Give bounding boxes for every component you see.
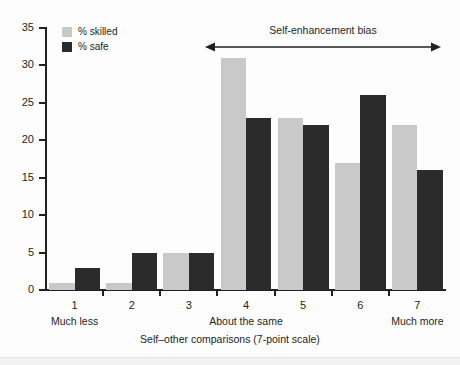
self-enhancement-bias-annotation: Self-enhancement bias (205, 24, 441, 51)
bar (335, 163, 360, 290)
y-axis-tick (39, 252, 46, 254)
x-axis-tick (216, 291, 218, 296)
bar (189, 253, 214, 290)
y-axis-tick-label: 25 (0, 97, 34, 108)
y-axis-tick-label: 15 (0, 172, 34, 183)
x-axis-tick-label: 5 (273, 299, 333, 311)
bar (392, 125, 417, 290)
x-axis-tick-label: 7 (387, 299, 447, 311)
legend-item: % skilled (62, 25, 117, 38)
x-axis-sub-label: Much more (357, 315, 460, 327)
y-axis-tick-label: 5 (0, 247, 34, 258)
x-axis-tick (102, 291, 104, 296)
legend-swatch-icon (62, 27, 72, 37)
bar (360, 95, 385, 290)
chart-legend: % skilled% safe (62, 25, 117, 55)
y-axis-tick (39, 64, 46, 66)
bar (278, 118, 303, 290)
y-axis-tick (39, 139, 46, 141)
bar-chart-figure: 05101520253035 1Much less234About the sa… (0, 0, 460, 365)
x-axis-tick (274, 291, 276, 296)
annotation-label: Self-enhancement bias (205, 24, 441, 37)
y-axis-tick (39, 102, 46, 104)
bar (246, 118, 271, 290)
x-axis-tick (388, 291, 390, 296)
y-axis-tick (39, 27, 46, 29)
x-axis-tick-label: 6 (330, 299, 390, 311)
legend-label: % safe (78, 42, 109, 52)
legend-label: % skilled (78, 27, 117, 37)
x-axis-sub-label: About the same (186, 315, 306, 327)
y-axis-tick-label: 10 (0, 209, 34, 220)
bar (417, 170, 442, 290)
bar (163, 253, 188, 290)
x-axis-tick (159, 291, 161, 296)
legend-item: % safe (62, 40, 117, 53)
y-axis-tick (39, 214, 46, 216)
y-axis-tick-label: 35 (0, 22, 34, 33)
x-axis-tick-label: 4 (216, 299, 276, 311)
y-axis-tick (39, 177, 46, 179)
x-axis-tick-label: 2 (102, 299, 162, 311)
x-axis-title: Self–other comparisons (7-point scale) (0, 333, 460, 345)
double-headed-arrow-icon (205, 39, 441, 51)
y-axis-tick-label: 20 (0, 134, 34, 145)
bar (221, 58, 246, 290)
bar (106, 283, 131, 290)
bar (303, 125, 328, 290)
x-axis-tick (331, 291, 333, 296)
y-axis-tick-label: 30 (0, 59, 34, 70)
legend-swatch-icon (62, 42, 72, 52)
page-bottom-edge (0, 357, 460, 365)
x-axis-sub-label: Much less (15, 315, 135, 327)
x-axis-tick-label: 3 (159, 299, 219, 311)
plot-area (46, 28, 446, 290)
y-axis-tick-label: 0 (0, 284, 34, 295)
bar (49, 283, 74, 290)
x-axis-tick-label: 1 (45, 299, 105, 311)
bar (132, 253, 157, 290)
bar (75, 268, 100, 290)
